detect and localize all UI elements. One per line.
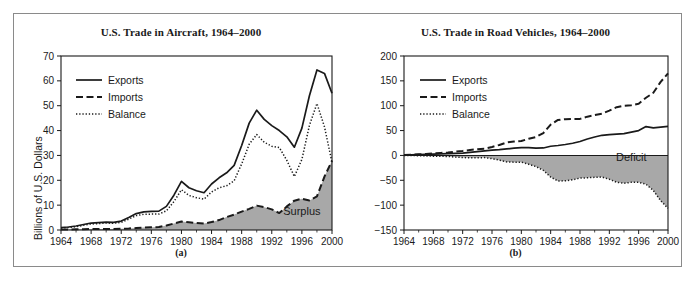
x-tick-label: 1992 — [261, 236, 284, 247]
chart-caption-b: (b) — [348, 247, 683, 258]
shaded-surplus-area — [61, 161, 332, 230]
y-tick-label: −100 — [374, 200, 397, 211]
x-tick-label: 1976 — [140, 236, 163, 247]
y-tick-label: 0 — [48, 225, 54, 236]
x-tick-label: 1972 — [452, 236, 475, 247]
x-tick-label: 1964 — [50, 236, 73, 247]
x-tick-label: 1984 — [200, 236, 223, 247]
figure-frame: U.S. Trade in Aircraft, 1964–2000 Billio… — [13, 13, 682, 267]
chart-caption-a: (a) — [14, 247, 348, 258]
x-tick-label: 2000 — [321, 236, 344, 247]
y-tick-label: 30 — [43, 150, 55, 161]
y-tick-label: 50 — [43, 100, 55, 111]
x-tick-label: 1980 — [510, 236, 533, 247]
x-tick-label: 1972 — [110, 236, 133, 247]
y-tick-label: 10 — [43, 200, 55, 211]
y-tick-label: 200 — [380, 51, 397, 62]
x-tick-label: 1968 — [80, 236, 103, 247]
legend-label-balance: Balance — [108, 108, 146, 120]
y-tick-label: 150 — [380, 75, 397, 86]
x-tick-label: 1988 — [569, 236, 592, 247]
y-tick-label: −50 — [380, 175, 397, 186]
y-tick-label: 40 — [43, 125, 55, 136]
legend-label-exports: Exports — [108, 74, 144, 86]
annotation-surplus: Surplus — [283, 205, 321, 217]
x-tick-label: 1996 — [628, 236, 651, 247]
legend-label-imports: Imports — [108, 91, 143, 103]
chart-title-road-vehicles: U.S. Trade in Road Vehicles, 1964–2000 — [348, 26, 683, 38]
x-tick-label: 1968 — [422, 236, 445, 247]
chart-title-aircraft: U.S. Trade in Aircraft, 1964–2000 — [14, 26, 348, 38]
legend-label-imports: Imports — [452, 91, 487, 103]
chart-svg-road-vehicles: −150−100−5005010015020019641968197219761… — [348, 44, 683, 264]
x-tick-label: 1976 — [481, 236, 504, 247]
annotation-deficit: Deficit — [616, 151, 647, 163]
chart-panel-road-vehicles: U.S. Trade in Road Vehicles, 1964–2000 B… — [348, 14, 683, 266]
y-tick-label: 60 — [43, 75, 55, 86]
y-tick-label: 50 — [386, 125, 398, 136]
y-tick-label: 100 — [380, 100, 397, 111]
y-tick-label: 0 — [391, 150, 397, 161]
x-tick-label: 2000 — [657, 236, 680, 247]
legend-label-balance: Balance — [452, 108, 490, 120]
x-tick-label: 1992 — [598, 236, 621, 247]
chart-panel-aircraft: U.S. Trade in Aircraft, 1964–2000 Billio… — [14, 14, 348, 266]
y-tick-label: −150 — [374, 225, 397, 236]
x-tick-label: 1964 — [393, 236, 416, 247]
x-tick-label: 1984 — [540, 236, 563, 247]
legend-label-exports: Exports — [452, 74, 488, 86]
y-tick-label: 20 — [43, 175, 55, 186]
x-tick-label: 1996 — [291, 236, 314, 247]
y-tick-label: 70 — [43, 51, 55, 62]
x-tick-label: 1980 — [170, 236, 193, 247]
plot-frame — [404, 56, 668, 230]
x-tick-label: 1988 — [231, 236, 254, 247]
chart-svg-aircraft: 0102030405060701964196819721976198019841… — [14, 44, 348, 264]
